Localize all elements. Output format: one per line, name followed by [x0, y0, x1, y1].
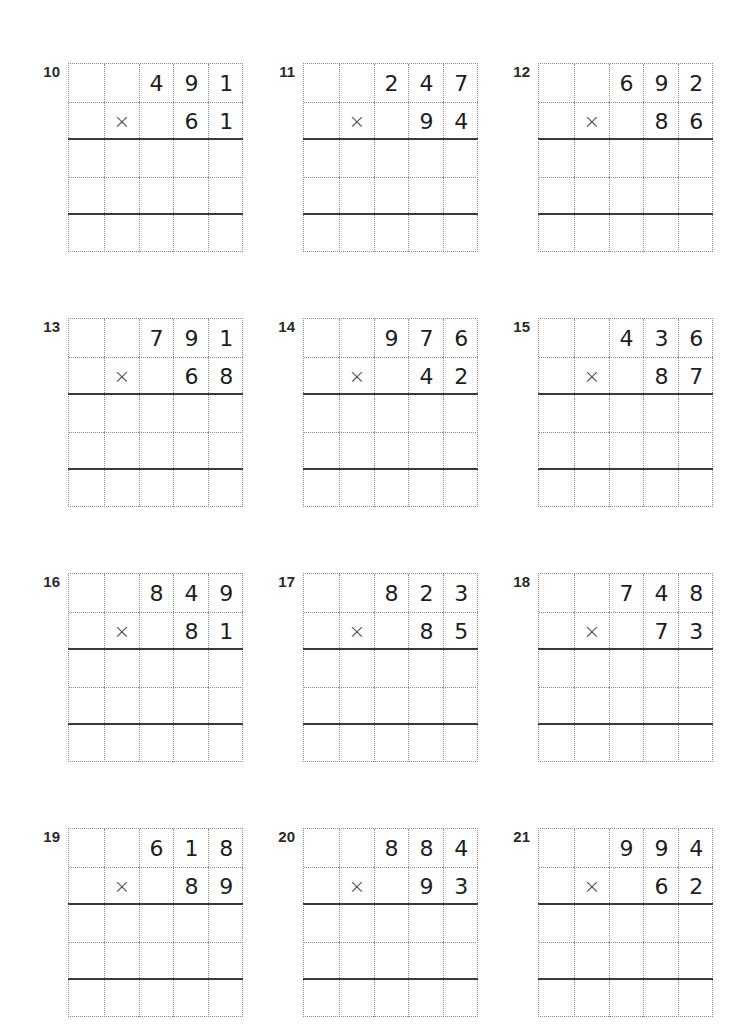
answer-cell[interactable] [69, 432, 104, 470]
answer-cell[interactable] [304, 687, 339, 725]
answer-cell[interactable] [643, 214, 678, 252]
answer-cell[interactable] [678, 687, 713, 725]
answer-cell[interactable] [339, 139, 374, 177]
answer-cell[interactable] [574, 177, 609, 215]
answer-cell[interactable] [539, 394, 574, 432]
answer-cell[interactable] [643, 979, 678, 1017]
answer-cell[interactable] [609, 214, 644, 252]
answer-cell[interactable] [574, 649, 609, 687]
answer-cell[interactable] [374, 942, 409, 980]
answer-cell[interactable] [539, 649, 574, 687]
answer-cell[interactable] [339, 177, 374, 215]
answer-cell[interactable] [304, 979, 339, 1017]
answer-cell[interactable] [678, 942, 713, 980]
answer-cell[interactable] [139, 942, 174, 980]
answer-cell[interactable] [408, 942, 443, 980]
answer-cell[interactable] [443, 942, 478, 980]
answer-cell[interactable] [208, 469, 243, 507]
answer-cell[interactable] [574, 979, 609, 1017]
answer-cell[interactable] [408, 979, 443, 1017]
answer-cell[interactable] [104, 139, 139, 177]
answer-cell[interactable] [304, 214, 339, 252]
answer-cell[interactable] [609, 979, 644, 1017]
answer-cell[interactable] [374, 139, 409, 177]
answer-cell[interactable] [304, 432, 339, 470]
answer-cell[interactable] [104, 214, 139, 252]
answer-cell[interactable] [443, 649, 478, 687]
answer-cell[interactable] [539, 469, 574, 507]
answer-cell[interactable] [643, 724, 678, 762]
answer-cell[interactable] [539, 942, 574, 980]
answer-cell[interactable] [643, 649, 678, 687]
answer-cell[interactable] [339, 687, 374, 725]
answer-cell[interactable] [574, 214, 609, 252]
answer-cell[interactable] [139, 724, 174, 762]
answer-cell[interactable] [574, 469, 609, 507]
answer-cell[interactable] [139, 139, 174, 177]
answer-cell[interactable] [408, 469, 443, 507]
answer-cell[interactable] [678, 394, 713, 432]
answer-cell[interactable] [104, 394, 139, 432]
answer-cell[interactable] [104, 649, 139, 687]
answer-cell[interactable] [139, 177, 174, 215]
answer-cell[interactable] [304, 942, 339, 980]
answer-cell[interactable] [208, 394, 243, 432]
answer-cell[interactable] [69, 724, 104, 762]
answer-cell[interactable] [678, 139, 713, 177]
answer-cell[interactable] [173, 394, 208, 432]
answer-cell[interactable] [173, 177, 208, 215]
answer-cell[interactable] [104, 904, 139, 942]
answer-cell[interactable] [678, 177, 713, 215]
answer-cell[interactable] [339, 724, 374, 762]
answer-cell[interactable] [443, 687, 478, 725]
answer-cell[interactable] [443, 214, 478, 252]
answer-cell[interactable] [374, 649, 409, 687]
answer-cell[interactable] [609, 432, 644, 470]
answer-cell[interactable] [643, 687, 678, 725]
answer-cell[interactable] [173, 469, 208, 507]
answer-cell[interactable] [304, 649, 339, 687]
answer-cell[interactable] [443, 177, 478, 215]
answer-cell[interactable] [408, 904, 443, 942]
answer-cell[interactable] [339, 904, 374, 942]
answer-cell[interactable] [139, 649, 174, 687]
answer-cell[interactable] [173, 139, 208, 177]
answer-cell[interactable] [339, 394, 374, 432]
answer-cell[interactable] [69, 979, 104, 1017]
answer-cell[interactable] [208, 649, 243, 687]
answer-cell[interactable] [678, 214, 713, 252]
answer-cell[interactable] [139, 687, 174, 725]
answer-cell[interactable] [139, 979, 174, 1017]
answer-cell[interactable] [374, 724, 409, 762]
answer-cell[interactable] [539, 904, 574, 942]
answer-cell[interactable] [139, 394, 174, 432]
answer-cell[interactable] [408, 214, 443, 252]
answer-cell[interactable] [574, 724, 609, 762]
answer-cell[interactable] [304, 904, 339, 942]
answer-cell[interactable] [69, 394, 104, 432]
answer-cell[interactable] [539, 177, 574, 215]
answer-cell[interactable] [643, 394, 678, 432]
answer-cell[interactable] [139, 469, 174, 507]
answer-cell[interactable] [339, 649, 374, 687]
answer-cell[interactable] [104, 942, 139, 980]
answer-cell[interactable] [104, 469, 139, 507]
answer-cell[interactable] [304, 177, 339, 215]
answer-cell[interactable] [574, 942, 609, 980]
answer-cell[interactable] [443, 432, 478, 470]
answer-cell[interactable] [408, 139, 443, 177]
answer-cell[interactable] [104, 687, 139, 725]
answer-cell[interactable] [104, 724, 139, 762]
answer-cell[interactable] [208, 177, 243, 215]
answer-cell[interactable] [208, 724, 243, 762]
answer-cell[interactable] [539, 687, 574, 725]
answer-cell[interactable] [539, 139, 574, 177]
answer-cell[interactable] [408, 724, 443, 762]
answer-cell[interactable] [173, 724, 208, 762]
answer-cell[interactable] [339, 214, 374, 252]
answer-cell[interactable] [609, 177, 644, 215]
answer-cell[interactable] [408, 687, 443, 725]
answer-cell[interactable] [539, 979, 574, 1017]
answer-cell[interactable] [208, 432, 243, 470]
answer-cell[interactable] [339, 469, 374, 507]
